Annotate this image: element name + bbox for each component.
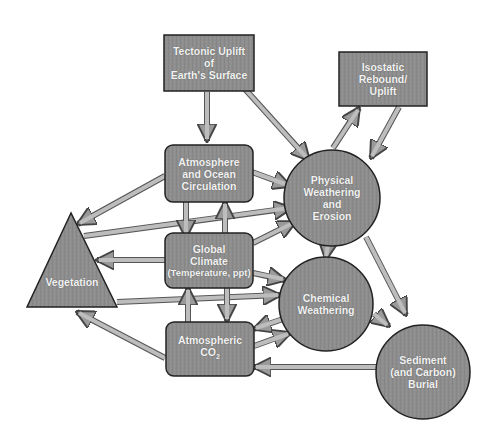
label-vegetation: Vegetation bbox=[27, 270, 117, 294]
label-isostatic-rebound: Isostatic Rebound/ Uplift bbox=[339, 52, 427, 106]
arrow-vegetation-to-chemical bbox=[117, 295, 280, 302]
label-chemical-weathering: Chemical Weathering bbox=[279, 257, 373, 351]
label-atmospheric-co2: Atmospheric CO2 bbox=[166, 322, 254, 376]
label-sediment-burial: Sediment (and Carbon) Burial bbox=[376, 325, 470, 419]
label-global-climate-main: Global Climate bbox=[190, 243, 228, 267]
arrow-physical-to-isostatic bbox=[333, 108, 359, 148]
label-co2-main: Atmospheric bbox=[178, 334, 242, 346]
arrow-atmosphere-to-vegetation bbox=[78, 176, 165, 224]
label-co2-formula: CO2 bbox=[200, 346, 220, 363]
arrow-co2-to-vegetation bbox=[77, 312, 165, 358]
label-atmosphere-ocean: Atmosphere and Ocean Circulation bbox=[165, 145, 253, 202]
label-physical-weathering: Physical Weathering and Erosion bbox=[284, 150, 380, 246]
label-tectonic-uplift: Tectonic Uplift of Earth's Surface bbox=[164, 35, 254, 91]
label-global-climate-sub: (Temperature, ppt) bbox=[167, 267, 250, 279]
label-global-climate: Global Climate (Temperature, ppt) bbox=[165, 233, 253, 288]
